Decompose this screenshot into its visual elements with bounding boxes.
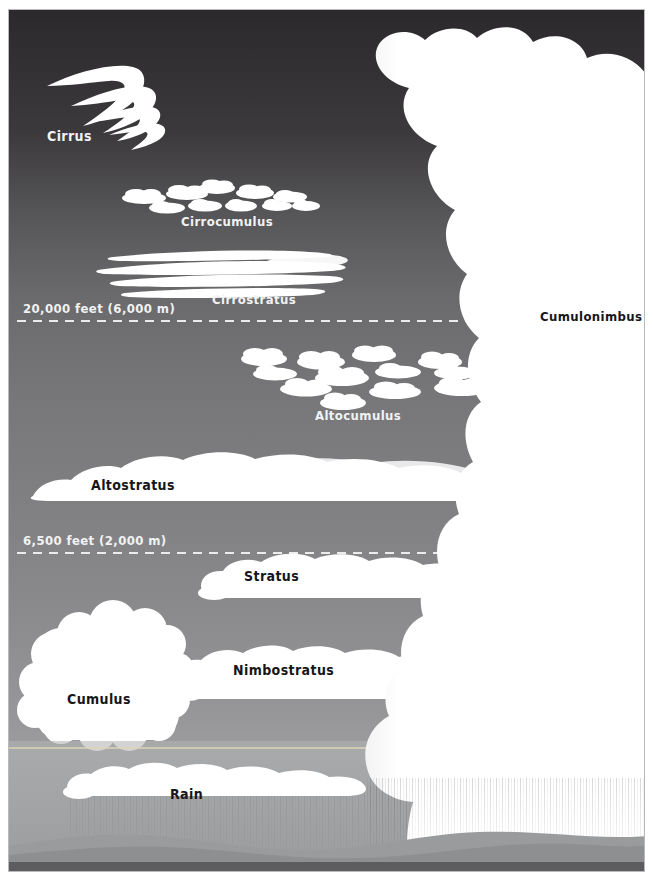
- cloud-label-stratocumulus: Stratus: [244, 568, 299, 584]
- cloud-diagram-canvas: 20,000 feet (6,000 m) 6,500 feet (2,000 …: [9, 10, 645, 872]
- cloud-label-cirrostratus: Cirrostratus: [212, 292, 296, 307]
- cloud-label-cirrus: Cirrus: [47, 128, 92, 144]
- cloud-label-altocumulus: Altocumulus: [315, 408, 401, 423]
- altitude-label-20000ft: 20,000 feet (6,000 m): [23, 301, 175, 316]
- cloud-diagram: 20,000 feet (6,000 m) 6,500 feet (2,000 …: [8, 9, 645, 872]
- cloud-label-cirrocumulus: Cirrocumulus: [181, 214, 273, 229]
- cloud-label-cumulonimbus: Cumulonimbus: [540, 309, 642, 324]
- ground-strip: [9, 862, 645, 872]
- cloud-label-stratus: Nimbostratus: [233, 662, 334, 678]
- cloud-label-nimbostratus: Rain: [170, 786, 203, 802]
- cloud-label-cumulus: Cumulus: [67, 691, 131, 707]
- altitude-label-6500ft: 6,500 feet (2,000 m): [23, 533, 167, 548]
- cloud-label-altostratus: Altostratus: [91, 477, 175, 493]
